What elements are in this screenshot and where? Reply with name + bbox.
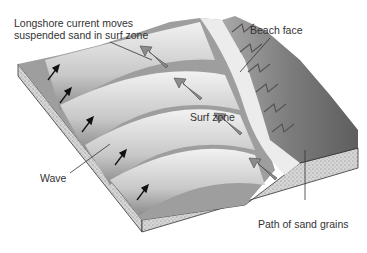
label-beach-face: Beach face — [250, 24, 303, 36]
label-surf-zone: Surf zone — [190, 111, 235, 123]
label-path-sand-grains: Path of sand grains — [258, 218, 348, 230]
label-wave: Wave — [40, 172, 66, 184]
label-longshore-current: Longshore current moves suspended sand i… — [14, 17, 148, 41]
label-longshore-line2: suspended sand in surf zone — [14, 29, 148, 41]
label-longshore-line1: Longshore current moves — [14, 17, 148, 29]
